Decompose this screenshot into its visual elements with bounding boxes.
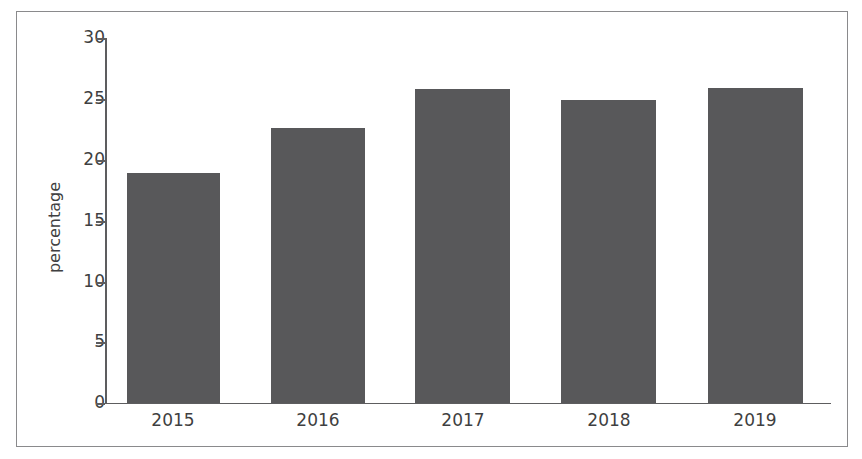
y-axis-line bbox=[105, 38, 107, 404]
y-tick-mark-30 bbox=[96, 38, 105, 40]
bar-2015[interactable] bbox=[127, 173, 220, 403]
y-tick-mark-0 bbox=[96, 403, 105, 405]
y-tick-mark-20 bbox=[96, 160, 105, 162]
x-tick-label-2019: 2019 bbox=[695, 412, 815, 429]
x-tick-label-2017: 2017 bbox=[403, 412, 523, 429]
x-tick-label-2018: 2018 bbox=[549, 412, 669, 429]
y-tick-mark-10 bbox=[96, 282, 105, 284]
y-tick-mark-5 bbox=[96, 342, 105, 344]
bar-2019[interactable] bbox=[708, 88, 803, 403]
plot-area: percentage 30 25 20 15 10 5 0 bbox=[0, 0, 862, 459]
x-tick-label-2015: 2015 bbox=[113, 412, 233, 429]
y-axis-title: percentage bbox=[45, 168, 64, 288]
bar-2017[interactable] bbox=[415, 89, 510, 403]
bar-2016[interactable] bbox=[271, 128, 365, 403]
chart-figure: percentage 30 25 20 15 10 5 0 bbox=[0, 0, 862, 459]
y-tick-mark-25 bbox=[96, 99, 105, 101]
y-tick-mark-15 bbox=[96, 221, 105, 223]
x-tick-label-2016: 2016 bbox=[258, 412, 378, 429]
bar-2018[interactable] bbox=[561, 100, 656, 403]
